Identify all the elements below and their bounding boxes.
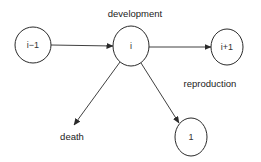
node-offspring: 1: [175, 118, 207, 156]
label-development: development: [108, 8, 163, 19]
node-current: i: [113, 26, 149, 66]
node-next-label: i+1: [221, 42, 233, 52]
node-next: i+1: [211, 29, 243, 65]
node-prev-label: i−1: [27, 40, 39, 50]
edge-current-to-offspring-reproduction: [141, 63, 179, 123]
edge-current-to-death: [74, 62, 120, 125]
edge-prev-to-current: [51, 45, 113, 46]
label-reproduction: reproduction: [184, 78, 237, 89]
node-current-label: i: [130, 41, 132, 51]
life-cycle-diagram: i−1 i i+1 1 development reproduction dea…: [0, 0, 261, 162]
node-prev: i−1: [15, 27, 51, 63]
label-death: death: [60, 131, 84, 142]
node-offspring-label: 1: [188, 132, 193, 142]
